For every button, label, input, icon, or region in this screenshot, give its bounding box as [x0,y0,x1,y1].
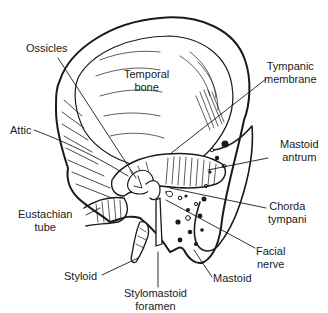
label-mastoid-antrum: Mastoid antrum [280,138,319,164]
facial-canal [156,198,162,246]
temporal-bone-diagram: Ossicles Temporal bone Tympanic membrane… [0,0,328,313]
label-temporal-bone: Temporal bone [124,68,169,94]
leader-styloid [102,258,138,275]
label-ossicles: Ossicles [26,42,68,55]
ossicle-incus [146,181,160,200]
temporal-bone-outline [56,17,249,263]
leader-chorda-tympani [170,188,266,208]
label-tympanic-membrane: Tympanic membrane [264,60,317,86]
label-stylomastoid-foramen: Stylomastoid foramen [124,287,187,313]
label-attic: Attic [10,124,31,137]
label-mastoid: Mastoid [213,272,252,285]
label-facial-nerve: Facial nerve [256,245,285,271]
label-eustachian-tube: Eustachian tube [18,208,72,234]
leader-attic [34,130,128,176]
label-chorda-tympani: Chorda tympani [268,200,307,226]
label-styloid: Styloid [64,270,97,283]
